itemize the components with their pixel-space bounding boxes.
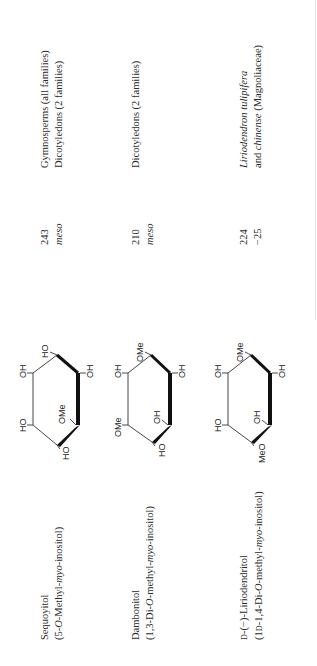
substituent-upper-left: OH: [113, 365, 123, 379]
structure-ring-sequoyitol: OH HO HO OH OMe HO: [18, 345, 95, 461]
substituent-upper-left: OH: [213, 365, 223, 379]
substituent-inner: OH: [252, 411, 262, 425]
substituent-right: OH: [85, 365, 95, 379]
substituent-top: OMe: [135, 342, 145, 362]
structure-ring-liriodendritol: OH HO OMe OH OH MeO: [213, 342, 287, 463]
structure-ring-dambonitol: OH OMe OMe OH OH HO: [113, 342, 187, 457]
substituent-lower-left: OMe: [113, 417, 123, 437]
substituent-lower-left: HO: [213, 419, 223, 433]
substituent-inner: OH: [152, 411, 162, 425]
substituent-right: OH: [277, 365, 287, 379]
substituent-right: OH: [177, 365, 187, 379]
substituent-lower-left: HO: [18, 419, 28, 433]
substituent-inner: OMe: [57, 404, 67, 424]
substituent-upper-left: OH: [18, 365, 28, 379]
substituent-top: HO: [40, 345, 50, 359]
substituent-top: OMe: [235, 342, 245, 362]
substituent-bottom: HO: [61, 447, 71, 461]
structures-layer: OH HO HO OH OMe HO OH OMe OMe OH OH: [0, 0, 317, 666]
substituent-bottom: MeO: [257, 443, 267, 463]
substituent-bottom: HO: [157, 444, 167, 458]
